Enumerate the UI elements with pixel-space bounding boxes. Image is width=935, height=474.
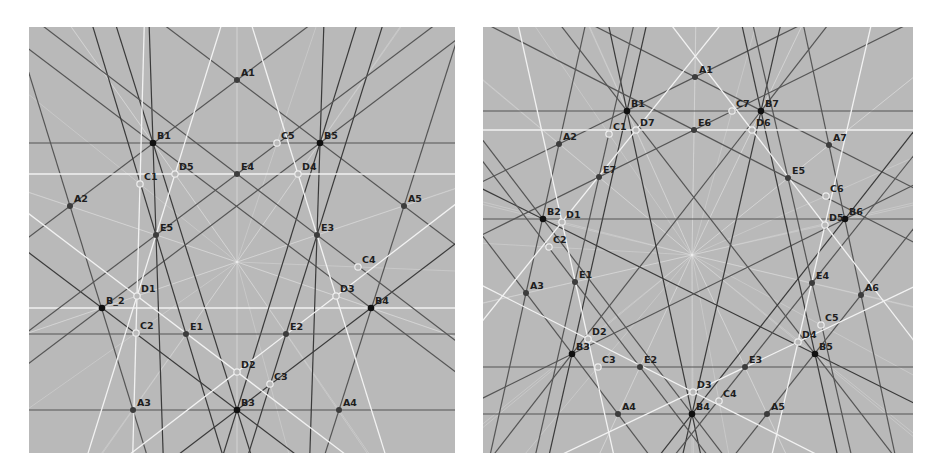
- point-label: D1: [566, 209, 581, 220]
- point-label: E2: [290, 321, 303, 332]
- line-b5-b_2[interactable]: [29, 27, 455, 453]
- line-e4-e5[interactable]: [29, 27, 455, 453]
- line-b3-b5[interactable]: [29, 27, 455, 453]
- point-a5[interactable]: A5: [401, 193, 422, 209]
- point-label: C6: [830, 183, 844, 194]
- point-e7[interactable]: E7: [596, 164, 616, 180]
- point-label: D1: [141, 283, 156, 294]
- point-label: A6: [865, 282, 879, 293]
- point-label: B5: [819, 341, 833, 352]
- point-a6[interactable]: A6: [858, 282, 879, 298]
- line-a1-a2[interactable]: [29, 27, 455, 453]
- line-d3-d2[interactable]: [29, 27, 455, 453]
- point-d6[interactable]: D6: [749, 117, 771, 133]
- line-e3-e2[interactable]: [29, 27, 455, 453]
- line-e5-e1[interactable]: [29, 27, 455, 453]
- line-d1-d2[interactable]: [29, 27, 455, 453]
- point-label: D3: [697, 379, 712, 390]
- point-e5[interactable]: E5: [785, 165, 805, 181]
- point-b3[interactable]: B3: [569, 341, 590, 357]
- point-label: A5: [771, 401, 785, 412]
- point-label: D4: [302, 161, 317, 172]
- point-a2[interactable]: A2: [556, 131, 577, 147]
- point-label: D4: [802, 329, 817, 340]
- point-label: D5: [179, 161, 194, 172]
- point-d1[interactable]: D1: [559, 209, 581, 225]
- point-label: C1: [144, 171, 158, 182]
- point-label: A5: [408, 193, 422, 204]
- line-d1-d2[interactable]: [483, 27, 822, 453]
- point-label: E5: [792, 165, 805, 176]
- point-a2[interactable]: A2: [67, 193, 88, 209]
- line-e4-e3[interactable]: [29, 27, 455, 453]
- line-b1-b3[interactable]: [29, 27, 455, 453]
- line-b1-b4[interactable]: [29, 27, 455, 453]
- point-b2[interactable]: B_2: [99, 295, 125, 311]
- point-c6[interactable]: C6: [823, 183, 844, 199]
- radial-guides: [29, 27, 455, 453]
- point-d4[interactable]: D4: [295, 161, 317, 177]
- line-c1-c2[interactable]: [108, 27, 172, 453]
- point-label: D3: [340, 283, 355, 294]
- point-label: B1: [157, 130, 171, 141]
- point-label: E1: [579, 269, 592, 280]
- point-label: E4: [816, 270, 829, 281]
- point-label: D2: [241, 359, 256, 370]
- point-label: C1: [613, 121, 627, 132]
- point-label: A7: [833, 132, 847, 143]
- point-label: B1: [631, 98, 645, 109]
- point-b4[interactable]: B4: [368, 295, 390, 311]
- point-b1[interactable]: B1: [624, 98, 645, 114]
- point-label: B3: [241, 397, 255, 408]
- point-c3[interactable]: C3: [267, 371, 288, 387]
- point-label: E1: [190, 321, 203, 332]
- line-b4-b3[interactable]: [29, 27, 455, 453]
- point-label: E2: [644, 354, 657, 365]
- point-label: A3: [530, 280, 544, 291]
- point-label: B2: [547, 206, 561, 217]
- line-d5-d1[interactable]: [29, 27, 455, 453]
- point-label: E6: [698, 117, 711, 128]
- point-e1[interactable]: E1: [572, 269, 592, 285]
- point-c5[interactable]: C5: [274, 130, 295, 146]
- line-b1-e5[interactable]: [114, 27, 192, 453]
- right-diagram-canvas[interactable]: A1A2A3A4A5A6A7B1B2B3B4B5B6B7C1C2C3C4C5C6…: [483, 27, 913, 453]
- point-c4[interactable]: C4: [716, 388, 737, 404]
- point-label: C2: [140, 320, 154, 331]
- construction-lines: [29, 27, 455, 453]
- heptagon-construction-drawing: A1A2A3A4A5A6A7B1B2B3B4B5B6B7C1C2C3C4C5C6…: [483, 27, 913, 453]
- line-b_2-b3[interactable]: [29, 27, 455, 453]
- point-c3[interactable]: C3: [595, 354, 616, 370]
- point-b6[interactable]: B6: [842, 206, 864, 222]
- line-a5-a1[interactable]: [29, 27, 455, 453]
- point-label: C4: [723, 388, 737, 399]
- point-label: C7: [736, 98, 750, 109]
- point-label: A1: [699, 64, 713, 75]
- point-label: A2: [563, 131, 577, 142]
- point-label: C5: [825, 312, 839, 323]
- point-label: A1: [241, 67, 255, 78]
- line-a6-a7[interactable]: [611, 27, 913, 453]
- line-a4-a5[interactable]: [29, 27, 455, 453]
- point-label: C4: [362, 254, 376, 265]
- point-label: C3: [602, 354, 616, 365]
- point-b7[interactable]: B7: [758, 98, 779, 114]
- point-d3[interactable]: D3: [333, 283, 355, 299]
- point-label: B4: [375, 295, 389, 306]
- left-diagram-canvas[interactable]: A1A2A3A4A5B1B_2B3B4B5C1C2C3C4C5D1D2D3D4D…: [29, 27, 455, 453]
- point-a3[interactable]: A3: [523, 280, 544, 296]
- pentagon-construction-drawing: A1A2A3A4A5B1B_2B3B4B5C1C2C3C4C5D1D2D3D4D…: [29, 27, 455, 453]
- line-d4-d3[interactable]: [29, 27, 455, 453]
- point-label: C2: [553, 234, 567, 245]
- point-e4[interactable]: E4: [809, 270, 829, 286]
- point-label: D5: [829, 212, 844, 223]
- point-label: E5: [160, 222, 173, 233]
- point-label: B_2: [106, 295, 125, 306]
- point-d7[interactable]: D7: [633, 117, 655, 133]
- point-label: C5: [281, 130, 295, 141]
- point-b5[interactable]: B5: [812, 341, 833, 357]
- point-c1[interactable]: C1: [606, 121, 627, 137]
- center-point: [236, 261, 238, 263]
- point-d5[interactable]: D5: [172, 161, 194, 177]
- point-c7[interactable]: C7: [729, 98, 750, 114]
